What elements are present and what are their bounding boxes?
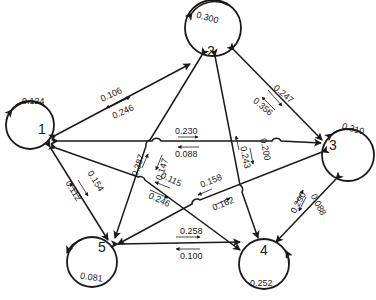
node-1-label: 1 (38, 121, 46, 137)
node-3: 3 0.310 (322, 121, 374, 181)
edge-4-5-label-b: 0.100 (180, 251, 203, 261)
node-1: 1 0.124 (6, 96, 54, 149)
node-2: 2 0.300 (185, 0, 241, 59)
edge-2-5-label-a: 0.387 (130, 153, 146, 178)
edge-2-5: 0.387 0.147 (115, 55, 202, 238)
node-4: 4 0.252 (239, 239, 289, 289)
edge-4-5: 0.258 0.100 (118, 226, 240, 261)
edge-1-5: 0.154 0.112 (50, 147, 108, 240)
edge-1-4: 0.115 0.246 (56, 148, 240, 250)
node-4-label: 4 (260, 242, 268, 258)
edge-1-3-label-a: 0.230 (175, 126, 198, 136)
node-5: 5 0.081 (67, 237, 117, 287)
node-3-label: 3 (329, 137, 337, 153)
edge-1-5-label-b: 0.112 (63, 179, 83, 203)
edge-2-3: 0.247 0.356 (234, 50, 322, 140)
transition-diagram: 1 0.124 2 0.300 3 0.310 4 0.252 5 0.081 … (0, 0, 376, 300)
edge-4-5-label-a: 0.258 (180, 226, 203, 236)
edge-1-3: 0.230 0.088 (58, 126, 321, 159)
edge-1-3-label-b: 0.088 (175, 149, 198, 159)
edge-1-2: 0.106 0.246 (56, 64, 190, 135)
edge-1-4-label-b: 0.246 (147, 190, 172, 209)
edge-3-5-label-a: 0.158 (199, 172, 224, 190)
edge-2-4: 0.243 0.200 (215, 56, 273, 238)
edge-3-5-label-b: 0.162 (211, 195, 236, 213)
node-5-self-loop: 0.081 (80, 271, 104, 284)
node-2-self-loop: 0.300 (195, 10, 219, 25)
node-4-self-loop: 0.252 (250, 278, 273, 288)
node-1-self-loop: 0.124 (22, 96, 45, 106)
node-5-label: 5 (98, 239, 106, 255)
edge-1-5-label-a: 0.154 (85, 169, 105, 193)
node-3-self-loop: 0.310 (341, 121, 365, 136)
edge-3-4: 0.290 0.088 (276, 179, 336, 242)
node-2-label: 2 (207, 43, 215, 59)
edge-2-3-label-b: 0.356 (251, 96, 275, 118)
